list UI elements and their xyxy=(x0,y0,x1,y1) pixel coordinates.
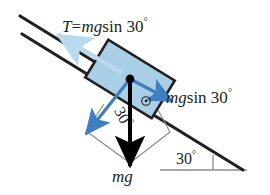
inclined-plane-free-body-diagram: T=mgsin 30° mgsin 30° mg 30° 30° xyxy=(0,0,270,195)
label-angle-base: 30° xyxy=(176,150,196,167)
angle-base-value: 30 xyxy=(176,150,192,167)
component-trig: sin 30 xyxy=(187,88,228,107)
component-mass-gravity: mg xyxy=(166,88,187,107)
equals-sign: = xyxy=(71,17,81,36)
tension-trig: sin 30 xyxy=(102,17,143,36)
label-weight: mg xyxy=(112,168,133,185)
component-degree-symbol: ° xyxy=(228,87,232,98)
force-application-point xyxy=(126,75,135,84)
tension-degree-symbol: ° xyxy=(143,16,147,27)
tension-mass-gravity: mg xyxy=(82,17,103,36)
label-component-along-incline: mgsin 30° xyxy=(166,88,232,106)
label-tension: T=mgsin 30° xyxy=(62,17,148,35)
angle-base-degree-symbol: ° xyxy=(192,149,196,160)
